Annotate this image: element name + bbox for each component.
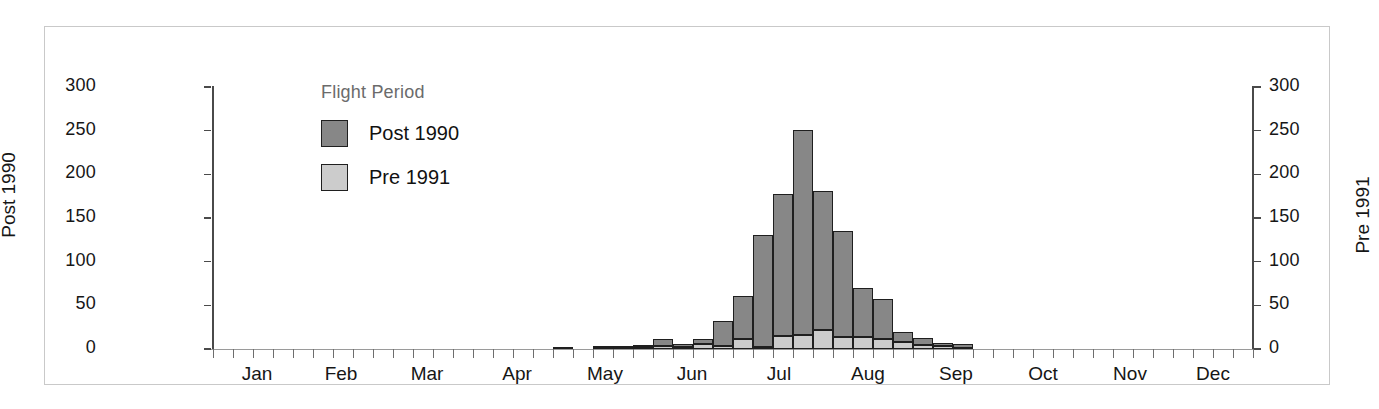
right-axis-tick-label: 100 [1269,250,1300,271]
bar-segment-post-1990 [633,345,653,347]
left-axis-tick-label: 200 [65,162,96,183]
x-axis-tick [1253,349,1254,358]
histogram-bar [653,339,673,349]
left-axis-tick-label: 50 [76,293,96,314]
bar-segment-post-1990 [853,288,873,337]
bar-segment-pre-1991 [913,345,933,349]
histogram-bar [613,346,633,349]
bar-segment-pre-1991 [693,344,713,349]
histogram-bar [793,130,813,349]
right-axis-tick-label: 50 [1269,293,1289,314]
x-axis-tick [1053,349,1054,358]
bar-segment-post-1990 [833,231,853,337]
x-axis-tick [913,349,914,358]
bar-segment-pre-1991 [853,337,873,349]
left-axis-tick [204,130,211,132]
x-axis-tick [473,349,474,358]
x-axis-tick [853,349,854,358]
x-axis-tick [993,349,994,358]
x-axis-tick [1173,349,1174,358]
x-axis-tick [533,349,534,358]
x-axis-tick [1233,349,1234,358]
left-axis-tick [204,217,211,219]
right-axis-tick-label: 0 [1269,337,1279,358]
bar-segment-pre-1991 [733,339,753,349]
right-axis-tick [1254,174,1261,176]
histogram-bar [893,332,913,349]
chart-frame: Flight Period Post 1990 Pre 1991 Post 19… [44,26,1330,385]
x-axis-tick [1133,349,1134,358]
x-axis-month-label: Jan [242,363,273,385]
bar-segment-post-1990 [813,191,833,330]
histogram-bar [813,191,833,349]
x-axis-month-label: Aug [851,363,885,385]
x-axis-tick [973,349,974,358]
histogram-bar [593,347,613,349]
plot-area [213,87,1253,349]
histogram-bar [553,348,573,349]
bar-segment-pre-1991 [653,346,673,349]
x-axis-month-label: Jul [767,363,791,385]
x-axis-tick [793,349,794,358]
bar-segment-post-1990 [613,346,633,349]
x-axis-month-label: Dec [1196,363,1230,385]
bar-segment-post-1990 [913,338,933,345]
x-axis-tick [953,349,954,358]
bar-segment-pre-1991 [933,346,953,349]
x-axis-month-label: Jun [677,363,708,385]
bar-segment-post-1990 [873,299,893,339]
bar-segment-pre-1991 [833,337,853,349]
x-axis-tick [1013,349,1014,358]
histogram-bar [733,296,753,349]
left-axis-tick-label: 300 [65,75,96,96]
left-axis-tick-label: 100 [65,250,96,271]
x-axis-tick [233,349,234,358]
x-axis-tick [833,349,834,358]
left-axis-tick-label: 150 [65,206,96,227]
left-axis-title: Post 1990 [0,152,20,238]
histogram-bar [673,344,693,349]
x-axis-tick [213,349,214,358]
histogram-bar [913,338,933,349]
x-axis-month-label: Apr [502,363,532,385]
histogram-bar [953,344,973,349]
bar-segment-post-1990 [953,344,973,348]
x-axis-tick [553,349,554,358]
bar-segment-post-1990 [593,346,613,348]
bar-segment-post-1990 [553,347,573,349]
bar-segment-post-1990 [673,344,693,347]
bar-segment-post-1990 [653,339,673,347]
x-axis-tick [313,349,314,358]
x-axis-tick [1153,349,1154,358]
bar-segment-post-1990 [693,339,713,344]
bar-segment-post-1990 [733,296,753,339]
x-axis-tick [1193,349,1194,358]
histogram-bar [933,343,953,349]
x-axis-tick [873,349,874,358]
left-axis-tick [204,174,211,176]
bar-segment-post-1990 [773,194,793,336]
x-axis-tick [593,349,594,358]
x-axis-tick [1093,349,1094,358]
x-axis-tick [413,349,414,358]
x-axis-tick [253,349,254,358]
x-axis-tick [453,349,454,358]
bar-segment-post-1990 [713,321,733,345]
right-axis-title: Pre 1991 [1352,176,1374,253]
x-axis-tick [773,349,774,358]
histogram-bar [873,299,893,349]
x-axis-month-label: Nov [1113,363,1147,385]
left-axis-tick [204,348,211,350]
x-axis-tick [433,349,434,358]
left-axis-tick [204,305,211,307]
bar-segment-pre-1991 [713,346,733,349]
x-axis-month-label: May [587,363,623,385]
x-axis-tick [933,349,934,358]
histogram-bar [753,235,773,349]
right-axis-tick-label: 250 [1269,119,1300,140]
x-axis-tick [373,349,374,358]
left-axis-tick [204,86,211,88]
right-axis-tick [1254,305,1261,307]
x-axis-tick [1033,349,1034,358]
x-axis-tick [653,349,654,358]
